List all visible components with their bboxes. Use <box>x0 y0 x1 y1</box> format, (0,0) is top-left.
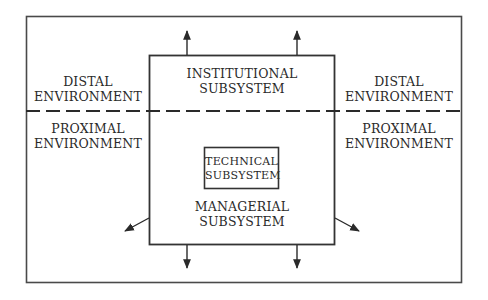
technical-subsystem-label: TECHNICAL SUBSYSTEM <box>205 155 278 182</box>
distal-environment-left-label: DISTAL ENVIRONMENT <box>30 74 146 104</box>
organization-environment-diagram: DISTAL ENVIRONMENT DISTAL ENVIRONMENT PR… <box>0 0 488 300</box>
arrow-diagonal-left-icon <box>125 218 149 231</box>
arrow-diagonal-right-icon <box>335 218 359 231</box>
proximal-environment-left-label: PROXIMAL ENVIRONMENT <box>30 121 146 151</box>
managerial-subsystem-label: MANAGERIAL SUBSYSTEM <box>150 199 334 229</box>
proximal-environment-right-label: PROXIMAL ENVIRONMENT <box>338 121 460 151</box>
distal-environment-right-label: DISTAL ENVIRONMENT <box>338 74 460 104</box>
institutional-subsystem-label: INSTITUTIONAL SUBSYSTEM <box>150 66 334 96</box>
